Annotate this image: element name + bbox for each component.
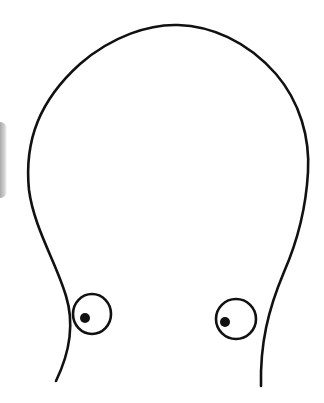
head-outline [28,25,308,386]
left-eye-pupil [80,313,90,323]
head-drawing [0,0,324,403]
right-eye-pupil [220,317,230,327]
left-eye [73,294,111,334]
left-eye-outline [73,294,111,334]
right-eye [216,299,256,339]
edge-shadow [0,122,7,198]
drawing-canvas [0,0,324,403]
